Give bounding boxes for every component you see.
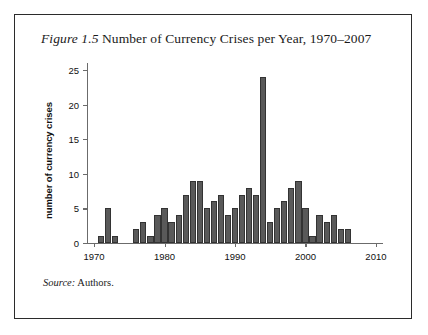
figure-frame: Figure 1.5 Number of Currency Crises per…: [14, 14, 412, 319]
y-axis-tick-mark: [83, 105, 87, 106]
source-label: Source:: [43, 277, 75, 288]
y-axis-tick-labels: 0510152025: [57, 57, 79, 269]
bar-1995: [267, 222, 273, 243]
bar-1978: [147, 236, 153, 243]
bar-1989: [225, 215, 231, 243]
x-axis-tick-label: 1990: [224, 251, 245, 262]
figure-title: Figure 1.5 Number of Currency Crises per…: [41, 31, 371, 47]
x-axis-tick-label: 1980: [154, 251, 175, 262]
x-axis-tick-mark: [94, 243, 95, 247]
bar-series: [87, 57, 383, 243]
x-axis-tick-mark: [235, 243, 236, 247]
bar-1987: [211, 201, 217, 243]
x-axis-tick-label: 2000: [295, 251, 316, 262]
x-axis-tick-label: 2010: [365, 251, 386, 262]
bar-1981: [168, 222, 174, 243]
bar-2003: [324, 222, 330, 243]
y-axis-tick-label: 25: [57, 64, 79, 75]
y-axis-tick-mark: [83, 174, 87, 175]
y-axis-tick-mark: [83, 139, 87, 140]
y-axis-title: number of currency crises: [41, 85, 55, 235]
bar-1979: [154, 215, 160, 243]
bar-1998: [288, 188, 294, 243]
bar-1984: [190, 181, 196, 243]
figure-number-label: Figure 1.5: [41, 31, 99, 46]
bar-1988: [218, 195, 224, 243]
y-axis-tick-label: 10: [57, 168, 79, 179]
bar-1997: [281, 201, 287, 243]
x-axis-tick-mark: [376, 243, 377, 247]
chart-plot-area: number of currency crises 0510152025 197…: [45, 57, 385, 269]
bar-1973: [112, 236, 118, 243]
bar-1977: [140, 222, 146, 243]
bar-1971: [98, 236, 104, 243]
x-axis-tick-mark: [165, 243, 166, 247]
bar-1985: [197, 181, 203, 243]
bar-1992: [246, 188, 252, 243]
bar-1994: [260, 77, 266, 243]
bar-1980: [161, 208, 167, 243]
chart-axes: 19701980199020002010: [87, 57, 385, 269]
figure-title-text: Number of Currency Crises per Year, 1970…: [99, 31, 372, 46]
bar-1991: [239, 195, 245, 243]
bar-1990: [232, 208, 238, 243]
y-axis-tick-mark: [83, 243, 87, 244]
bar-2004: [331, 215, 337, 243]
x-axis-tick-mark: [305, 243, 306, 247]
bar-2001: [309, 236, 315, 243]
source-text: Authors.: [75, 277, 114, 288]
y-axis-tick-mark: [83, 208, 87, 209]
bar-1986: [204, 208, 210, 243]
bar-1996: [274, 208, 280, 243]
bar-1999: [295, 181, 301, 243]
x-axis-tick-label: 1970: [83, 251, 104, 262]
y-axis-tick-label: 20: [57, 99, 79, 110]
y-axis-tick-mark: [83, 70, 87, 71]
y-axis-tick-label: 15: [57, 134, 79, 145]
bar-1983: [183, 195, 189, 243]
y-axis-tick-label: 5: [57, 203, 79, 214]
bar-1972: [105, 208, 111, 243]
bar-1993: [253, 195, 259, 243]
bar-2002: [316, 215, 322, 243]
source-note: Source: Authors.: [43, 277, 114, 288]
y-axis-tick-label: 0: [57, 238, 79, 249]
bar-2005: [338, 229, 344, 243]
bar-1982: [176, 215, 182, 243]
y-axis-title-label: number of currency crises: [43, 102, 54, 219]
bar-1976: [133, 229, 139, 243]
bar-2006: [345, 229, 351, 243]
bar-2000: [302, 208, 308, 243]
